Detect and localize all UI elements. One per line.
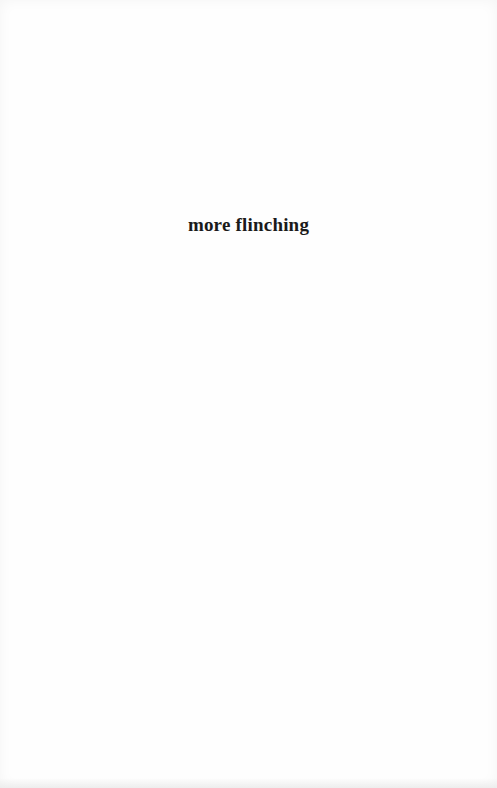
book-page: more flinching bbox=[0, 0, 497, 788]
section-title: more flinching bbox=[0, 214, 497, 236]
